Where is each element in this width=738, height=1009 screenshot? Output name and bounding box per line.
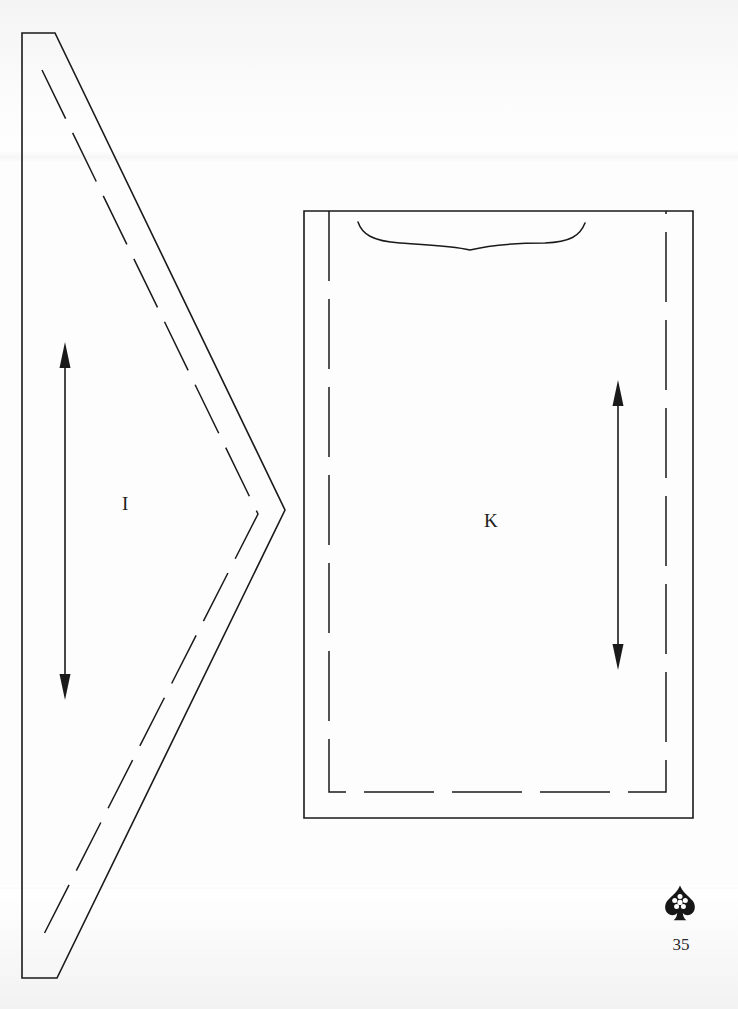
piece-i-label: I: [122, 494, 129, 513]
pattern-artwork: [0, 0, 738, 1009]
piece-k-arrowhead-down: [613, 644, 624, 670]
piece-k-neckline-curve: [358, 222, 585, 250]
piece-i-grainline-arrow: [60, 342, 71, 700]
piece-k-label: K: [484, 511, 498, 530]
pattern-piece-i: [22, 33, 285, 978]
pattern-sheet-page: I K 35: [0, 0, 738, 1009]
spade-rosette-icon: [663, 884, 697, 922]
piece-k-grainline-arrow: [613, 380, 624, 670]
piece-i-cutting-line: [22, 33, 285, 978]
page-number: 35: [668, 935, 694, 955]
piece-i-seam-line: [42, 70, 258, 938]
piece-i-arrowhead-down: [60, 674, 71, 700]
piece-k-seam-line: [329, 211, 666, 792]
piece-k-arrowhead-up: [613, 380, 624, 406]
piece-k-cutting-line: [304, 211, 693, 818]
pattern-piece-k: [304, 211, 693, 818]
piece-i-arrowhead-up: [60, 342, 71, 368]
